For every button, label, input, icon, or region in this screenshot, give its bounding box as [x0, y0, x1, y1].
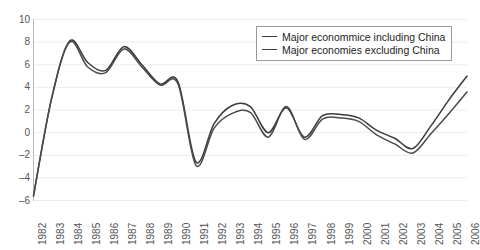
- x-axis-tick-label: 1988: [146, 223, 156, 245]
- legend-item-label: Major economies excluding China: [282, 44, 440, 56]
- x-axis-tick-label: 2006: [471, 223, 480, 245]
- x-axis-tick-label: 1989: [164, 223, 174, 245]
- x-axis-tick-label: 2001: [381, 223, 391, 245]
- legend-line-icon: [262, 49, 277, 50]
- x-axis-tick-label: 1993: [236, 223, 246, 245]
- x-axis-tick-label: 1999: [345, 223, 355, 245]
- x-axis-tick-label: 1986: [110, 223, 120, 245]
- legend-item[interactable]: Major economies excluding China: [262, 43, 445, 56]
- x-axis-tick-label: 1983: [56, 223, 66, 245]
- x-axis-tick-label: 1982: [38, 223, 48, 245]
- x-axis-tick-label: 1996: [290, 223, 300, 245]
- legend-item[interactable]: Major econommice including China: [262, 30, 445, 43]
- x-axis-tick-label: 1985: [92, 223, 102, 245]
- x-axis-tick-label: 1998: [327, 223, 337, 245]
- legend-item-label: Major econommice including China: [282, 31, 445, 43]
- x-axis-tick-label: 1984: [74, 223, 84, 245]
- x-axis-tick-label: 2004: [435, 223, 445, 245]
- x-axis-tick-label: 2002: [399, 223, 409, 245]
- legend: Major econommice including China Major e…: [256, 26, 452, 61]
- x-axis-tick-label: 1990: [182, 223, 192, 245]
- line-chart: 1086420–2–4–6 19821983198419851986198719…: [0, 0, 480, 250]
- x-axis-tick-label: 2003: [417, 223, 427, 245]
- x-axis-tick-label: 1997: [308, 223, 318, 245]
- x-axis-tick-label: 1995: [272, 223, 282, 245]
- x-axis-tick-label: 1994: [254, 223, 264, 245]
- x-axis-tick-label: 1991: [200, 223, 210, 245]
- legend-line-icon: [262, 36, 277, 37]
- x-axis-tick-label: 1992: [218, 223, 228, 245]
- x-axis-tick-label: 1987: [128, 223, 138, 245]
- x-axis-tick-label: 2005: [453, 223, 463, 245]
- x-axis-tick-label: 2000: [363, 223, 373, 245]
